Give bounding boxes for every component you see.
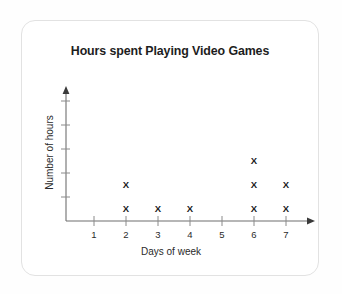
data-mark: X bbox=[279, 179, 293, 191]
axes bbox=[22, 21, 320, 277]
chart-card: Hours spent Playing Video Games Number o… bbox=[21, 20, 319, 276]
data-mark: X bbox=[247, 155, 261, 167]
x-tick-label: 1 bbox=[86, 229, 102, 240]
x-tick-label: 4 bbox=[182, 229, 198, 240]
x-axis-arrowhead bbox=[307, 217, 315, 224]
y-axis-arrowhead bbox=[63, 86, 70, 94]
x-tick-label: 5 bbox=[214, 229, 230, 240]
data-mark: X bbox=[247, 203, 261, 215]
x-tick-label: 7 bbox=[278, 229, 294, 240]
data-mark: X bbox=[247, 179, 261, 191]
screenshot-root: Hours spent Playing Video Games Number o… bbox=[0, 0, 342, 294]
plot-area: Number of hours Days of week bbox=[22, 21, 320, 277]
data-mark: X bbox=[183, 203, 197, 215]
x-tick-label: 2 bbox=[118, 229, 134, 240]
data-mark: X bbox=[279, 203, 293, 215]
x-tick-label: 6 bbox=[246, 229, 262, 240]
data-mark: X bbox=[151, 203, 165, 215]
data-mark: X bbox=[119, 203, 133, 215]
data-mark: X bbox=[119, 179, 133, 191]
x-tick-label: 3 bbox=[150, 229, 166, 240]
